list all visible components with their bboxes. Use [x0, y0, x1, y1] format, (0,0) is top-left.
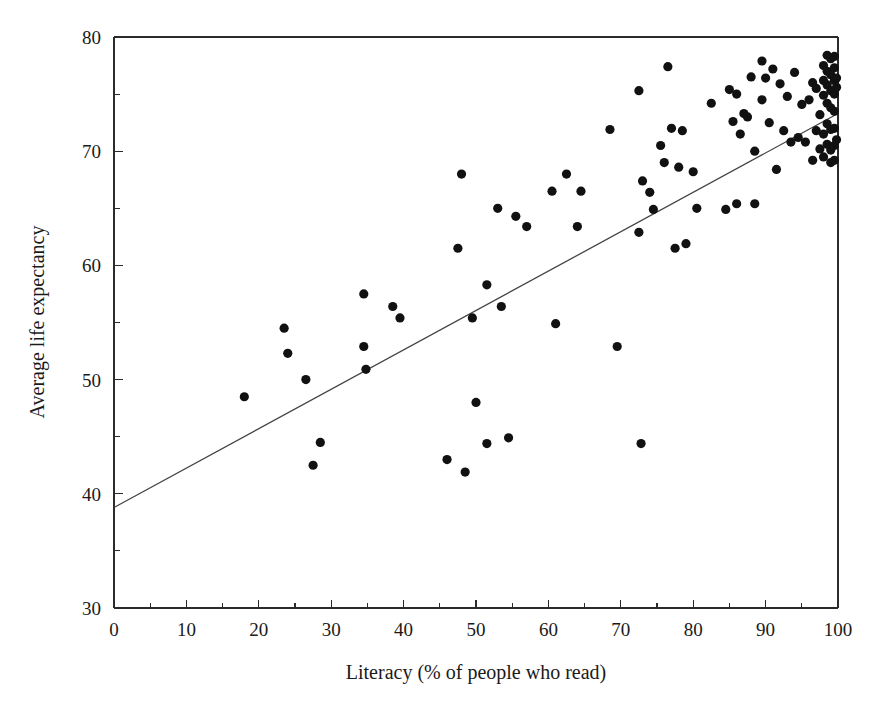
data-points	[240, 51, 841, 477]
data-point	[649, 205, 658, 214]
x-tick-label: 90	[756, 619, 775, 640]
data-point	[801, 137, 810, 146]
data-point	[819, 152, 828, 161]
data-point	[830, 156, 839, 165]
x-tick-label: 20	[249, 619, 268, 640]
x-tick-label: 70	[611, 619, 630, 640]
regression-line-segment	[114, 114, 838, 508]
data-point	[497, 302, 506, 311]
data-point	[830, 124, 839, 133]
data-point	[638, 176, 647, 185]
data-point	[482, 439, 491, 448]
data-point	[728, 117, 737, 126]
data-point	[453, 244, 462, 253]
data-point	[765, 118, 774, 127]
data-point	[656, 141, 665, 150]
data-point	[576, 187, 585, 196]
data-point	[671, 244, 680, 253]
data-point	[707, 99, 716, 108]
data-point	[832, 83, 841, 92]
data-point	[457, 169, 466, 178]
data-point	[830, 52, 839, 61]
data-point	[468, 313, 477, 322]
data-point	[359, 342, 368, 351]
data-point	[815, 110, 824, 119]
data-point	[750, 147, 759, 156]
scatter-plot-figure: 0102030405060708090100 304050607080 Lite…	[0, 0, 890, 707]
x-tick-label: 100	[824, 619, 853, 640]
data-point	[471, 398, 480, 407]
x-tick-label: 10	[177, 619, 196, 640]
data-point	[689, 167, 698, 176]
data-point	[493, 204, 502, 213]
data-point	[605, 125, 614, 134]
data-point	[732, 90, 741, 99]
data-point	[832, 74, 841, 83]
data-point	[359, 289, 368, 298]
data-point	[361, 365, 370, 374]
data-point	[743, 112, 752, 121]
data-point	[309, 461, 318, 470]
data-point	[775, 79, 784, 88]
data-point	[808, 156, 817, 165]
data-point	[747, 72, 756, 81]
x-tick-label: 0	[109, 619, 119, 640]
data-point	[678, 126, 687, 135]
data-point	[830, 107, 839, 116]
y-tick-label: 80	[82, 27, 101, 48]
y-tick-label: 30	[82, 598, 101, 619]
data-point	[551, 319, 560, 328]
data-point	[395, 313, 404, 322]
x-axis-title: Literacy (% of people who read)	[346, 661, 606, 684]
data-point	[721, 205, 730, 214]
data-point	[522, 222, 531, 231]
data-point	[240, 392, 249, 401]
data-point	[790, 68, 799, 77]
data-point	[283, 349, 292, 358]
data-point	[562, 169, 571, 178]
plot-canvas: 0102030405060708090100 304050607080 Lite…	[0, 0, 890, 707]
data-point	[667, 124, 676, 133]
data-point	[768, 64, 777, 73]
data-point	[280, 324, 289, 333]
data-point	[757, 95, 766, 104]
data-point	[645, 188, 654, 197]
data-point	[301, 375, 310, 384]
y-tick-label: 60	[82, 255, 101, 276]
data-point	[547, 187, 556, 196]
y-tick-label: 40	[82, 484, 101, 505]
x-tick-label: 30	[322, 619, 341, 640]
y-tick-label: 50	[82, 370, 101, 391]
data-point	[461, 468, 470, 477]
y-tick-label: 70	[82, 141, 101, 162]
data-point	[388, 302, 397, 311]
data-point	[761, 74, 770, 83]
data-point	[674, 163, 683, 172]
data-point	[442, 455, 451, 464]
data-point	[757, 56, 766, 65]
data-point	[663, 62, 672, 71]
x-tick-label: 40	[394, 619, 413, 640]
data-point	[804, 95, 813, 104]
x-tick-labels: 0102030405060708090100	[109, 619, 852, 640]
data-point	[779, 126, 788, 135]
data-point	[613, 342, 622, 351]
y-axis-title: Average life expectancy	[26, 226, 49, 419]
data-point	[692, 204, 701, 213]
data-point	[772, 165, 781, 174]
data-point	[636, 439, 645, 448]
data-point	[660, 158, 669, 167]
data-point	[681, 239, 690, 248]
data-point	[316, 438, 325, 447]
x-tick-label: 60	[539, 619, 558, 640]
data-point	[783, 92, 792, 101]
data-point	[830, 63, 839, 72]
data-point	[573, 222, 582, 231]
data-point	[750, 199, 759, 208]
data-point	[504, 433, 513, 442]
data-point	[832, 135, 841, 144]
y-tick-labels: 304050607080	[82, 27, 101, 619]
x-tick-label: 80	[684, 619, 703, 640]
regression-line	[114, 114, 838, 508]
x-tick-label: 50	[467, 619, 486, 640]
